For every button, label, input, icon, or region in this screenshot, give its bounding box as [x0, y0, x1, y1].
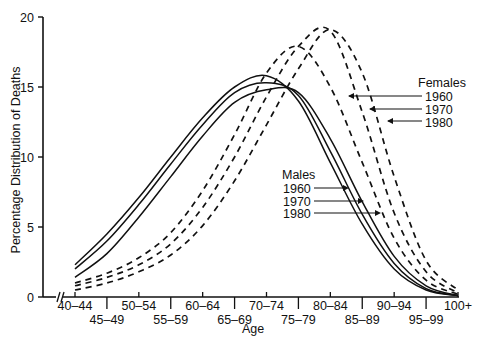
arrow-icon	[369, 106, 422, 112]
x-tick-label: 40–44	[58, 299, 93, 313]
x-tick-label: 75–79	[281, 313, 316, 327]
x-tick-label: 60–64	[185, 299, 220, 313]
y-axis-title: Percentage Distribution of Deaths	[9, 67, 23, 254]
legend-males-1960: 1960	[283, 182, 311, 196]
legend-males-title: Males	[282, 168, 315, 182]
series-line-females-1970	[75, 27, 458, 293]
x-tick-label: 85–89	[345, 313, 380, 327]
series-line-males-1960	[75, 75, 458, 295]
x-tick-label: 45–49	[90, 313, 125, 327]
x-tick-label: 50–54	[121, 299, 156, 313]
legend-females-1970: 1970	[425, 103, 453, 117]
series-line-females-1980	[75, 30, 458, 290]
x-axis-title: Age	[242, 322, 264, 336]
x-tick-label: 95–99	[409, 313, 444, 327]
legend-females-1960: 1960	[425, 90, 453, 104]
x-tick-label: 100+	[444, 299, 472, 313]
legend-males: Males 1960 1970 1980	[282, 168, 381, 221]
y-tick-label: 20	[20, 11, 34, 25]
legend-females: Females 1960 1970 1980	[348, 76, 466, 130]
x-tick-label: 90–94	[377, 299, 412, 313]
legend-females-title: Females	[418, 76, 466, 90]
series-line-males-1980	[75, 88, 458, 296]
y-axis: 05101520	[20, 11, 43, 305]
legend-females-1980: 1980	[425, 116, 453, 130]
x-tick-label: 55–59	[153, 313, 188, 327]
legend-males-1980: 1980	[283, 207, 311, 221]
series-layer	[75, 27, 458, 295]
x-tick-label: 80–84	[313, 299, 348, 313]
arrow-icon	[314, 210, 381, 216]
y-tick-label: 0	[27, 291, 34, 305]
arrow-icon	[387, 118, 422, 124]
y-tick-label: 5	[27, 221, 34, 235]
arrow-icon	[314, 185, 349, 191]
chart: 05101520 40–4445–4950–5455–5960–6465–697…	[0, 0, 480, 349]
x-tick-label: 70–74	[249, 299, 284, 313]
arrow-icon	[348, 93, 422, 99]
